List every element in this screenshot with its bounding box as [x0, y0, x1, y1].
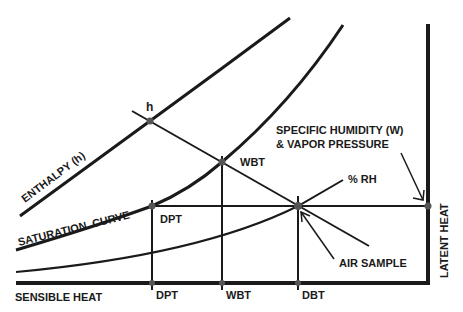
axis-dbt-point: [295, 280, 301, 286]
dpt-point-label: DPT: [160, 213, 182, 225]
h-label: h: [146, 100, 153, 114]
h-point: [147, 118, 154, 125]
latent-heat-label: LATENT HEAT: [438, 203, 450, 278]
axis-wbt-label: WBT: [226, 289, 251, 301]
axis-wbt-point: [219, 280, 225, 286]
specific-humidity-label-2: & VAPOR PRESSURE: [276, 138, 389, 150]
wbt-point: [219, 159, 226, 166]
axis-dpt-point: [149, 280, 155, 286]
diagram-svg: ENTHALPY (h) SATURATION CURVE h WBT DPT …: [0, 0, 463, 312]
enthalpy-label: ENTHALPY (h): [19, 149, 87, 205]
saturation-label: SATURATION CURVE: [17, 208, 131, 247]
axis-dbt-label: DBT: [302, 289, 325, 301]
rh-label: % RH: [348, 173, 377, 185]
wbt-point-label: WBT: [240, 156, 265, 168]
axis-dpt-label: DPT: [156, 289, 178, 301]
enthalpy-curve: [20, 18, 290, 216]
specific-humidity-arrow: [401, 153, 423, 200]
psychrometric-diagram: ENTHALPY (h) SATURATION CURVE h WBT DPT …: [0, 0, 463, 312]
latent-point: [425, 203, 432, 210]
air-sample-label: AIR SAMPLE: [339, 257, 407, 269]
sensible-heat-label: SENSIBLE HEAT: [15, 291, 102, 303]
specific-humidity-label-1: SPECIFIC HUMIDITY (W): [276, 124, 404, 136]
air-sample-point: [294, 202, 302, 210]
dpt-point: [149, 203, 156, 210]
air-sample-arrow: [301, 212, 334, 259]
